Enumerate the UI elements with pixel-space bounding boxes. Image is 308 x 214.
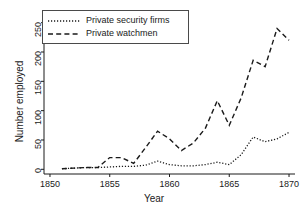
x-tick-label: 1860 bbox=[156, 179, 184, 189]
chart-figure: 050100150200250 18501855186018651870 Num… bbox=[0, 0, 308, 214]
x-tick-label: 1850 bbox=[36, 179, 64, 189]
legend-label-private-watchmen: Private watchmen bbox=[86, 28, 158, 39]
legend-item-private-security-firms: Private security firms bbox=[47, 14, 184, 27]
x-tick-label: 1865 bbox=[215, 179, 243, 189]
series-line-private-security-firms bbox=[62, 132, 289, 168]
y-axis-title: Number employed bbox=[14, 57, 25, 147]
dotted-line-key bbox=[47, 15, 81, 26]
x-tick-label: 1855 bbox=[96, 179, 124, 189]
series-line-private-watchmen bbox=[62, 29, 289, 169]
x-axis-title: Year bbox=[0, 193, 308, 204]
x-tick-label: 1870 bbox=[275, 179, 303, 189]
legend-label-private-security-firms: Private security firms bbox=[86, 15, 170, 26]
chart-legend: Private security firms Private watchmen bbox=[42, 10, 189, 44]
dashed-line-key bbox=[47, 28, 81, 39]
legend-item-private-watchmen: Private watchmen bbox=[47, 27, 184, 40]
